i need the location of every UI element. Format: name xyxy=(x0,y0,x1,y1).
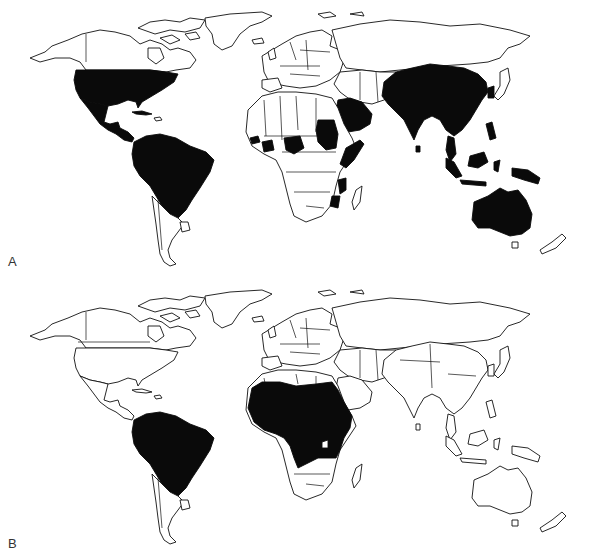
south-america xyxy=(132,134,214,266)
europe xyxy=(262,30,344,92)
map-panel-b: B xyxy=(0,278,609,555)
panel-label-a: A xyxy=(8,254,17,269)
world-map-b xyxy=(0,278,609,555)
south-america xyxy=(132,412,214,544)
russia xyxy=(318,290,530,350)
asia xyxy=(382,64,540,186)
map-panel-a: A xyxy=(0,0,609,278)
europe xyxy=(262,308,344,370)
asia xyxy=(382,342,540,464)
oceania xyxy=(472,466,566,532)
russia xyxy=(318,12,530,72)
north-america xyxy=(30,308,196,420)
north-america xyxy=(30,30,196,142)
oceania xyxy=(472,188,566,254)
world-map-a xyxy=(0,0,609,278)
panel-label-b: B xyxy=(8,536,17,551)
